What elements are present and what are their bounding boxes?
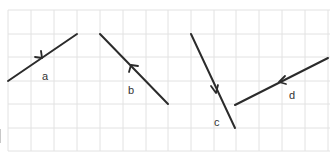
arrow-icon <box>35 51 42 58</box>
vector-diagram: a b c d <box>0 0 333 153</box>
vector-a: a <box>8 34 77 82</box>
vector-d-label: d <box>289 89 295 101</box>
vector-b: b <box>100 34 168 104</box>
vector-c-label: c <box>214 116 220 128</box>
vector-b-label: b <box>128 84 134 96</box>
vector-a-label: a <box>42 70 49 82</box>
